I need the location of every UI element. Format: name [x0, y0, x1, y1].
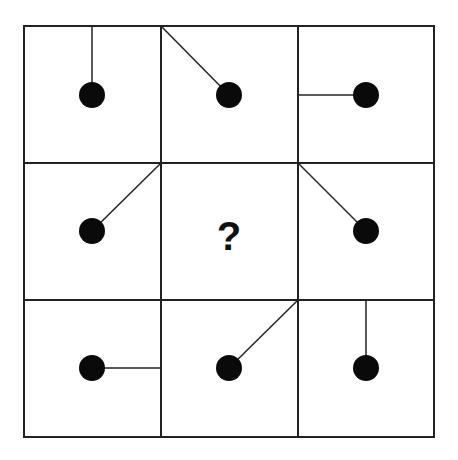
dot-icon — [353, 218, 379, 244]
puzzle-cell — [216, 300, 298, 381]
dot-icon — [216, 82, 242, 108]
connector-line — [298, 163, 366, 231]
dot-icon — [353, 355, 379, 381]
puzzle-cell — [353, 300, 379, 381]
puzzle-cell — [298, 82, 379, 108]
puzzle-grid: ? — [0, 0, 458, 460]
connector-line — [161, 26, 229, 95]
puzzle-cell — [79, 163, 161, 244]
connector-line — [92, 163, 161, 231]
dot-icon — [79, 218, 105, 244]
puzzle-cell — [161, 26, 242, 108]
dot-icon — [79, 82, 105, 108]
question-mark: ? — [217, 214, 241, 258]
dot-icon — [353, 82, 379, 108]
connector-line — [229, 300, 298, 368]
dot-icon — [216, 355, 242, 381]
dot-icon — [79, 355, 105, 381]
puzzle-cell — [298, 163, 379, 244]
puzzle-cell — [79, 26, 105, 108]
puzzle-cell — [79, 355, 161, 381]
puzzle-cells — [79, 26, 379, 381]
